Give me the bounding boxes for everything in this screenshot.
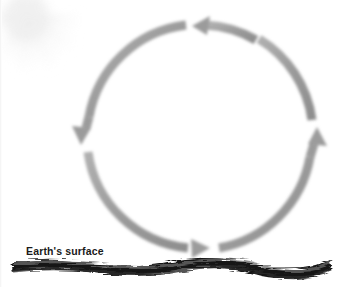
cycle-arrow-left-shaft bbox=[89, 25, 186, 117]
earth-surface-label: Earth's surface bbox=[26, 245, 104, 257]
cycle-arrow-top-shaft bbox=[205, 25, 256, 40]
cycle-arrow-bottom-head bbox=[191, 239, 210, 258]
cycle-arrow-left bbox=[72, 25, 186, 145]
cycle-arrow-right bbox=[219, 127, 327, 248]
cycle-arrow-right-shaft bbox=[219, 157, 310, 248]
cycle-arrow-left-head bbox=[72, 126, 91, 145]
cycle-arrow-top-head bbox=[192, 16, 210, 35]
cycle-arc-upper-right bbox=[259, 39, 312, 120]
cycle-arc-upper-right-shaft bbox=[259, 39, 312, 120]
cycle-arrow-left-neck bbox=[86, 117, 89, 128]
convection-cycle-arrows bbox=[72, 16, 327, 258]
cycle-arrow-bottom bbox=[88, 152, 210, 258]
cycle-arrow-bottom-shaft bbox=[88, 152, 188, 248]
diagram-canvas bbox=[0, 0, 337, 287]
sun-icon bbox=[0, 0, 86, 78]
cycle-arrow-top bbox=[192, 16, 256, 40]
earth-surface-band bbox=[12, 260, 331, 278]
cycle-arrow-right-neck bbox=[310, 144, 314, 157]
convection-diagram: Earth's surface bbox=[0, 0, 337, 287]
